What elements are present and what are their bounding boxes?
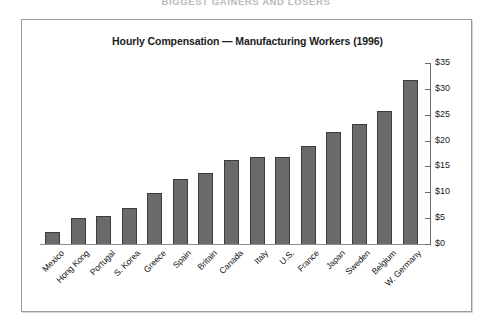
x-axis-tick-label: Canada — [217, 248, 245, 276]
x-axis-tick-label: Britain — [195, 248, 219, 272]
bar-slot — [117, 65, 143, 245]
x-axis-labels: MexicoHong KongPortugalS. KoreaGreeceSpa… — [40, 248, 431, 310]
bar-slot — [40, 65, 66, 245]
bar — [173, 179, 188, 245]
y-axis-tick — [425, 166, 431, 167]
bar — [326, 132, 341, 245]
bar-slot — [193, 65, 219, 245]
y-axis-tick-label: $25 — [435, 109, 450, 119]
y-axis-tick — [425, 192, 431, 193]
bar — [224, 160, 239, 245]
bar-slot — [168, 65, 194, 245]
y-axis-tick — [425, 218, 431, 219]
y-axis-tick-label: $15 — [435, 160, 450, 170]
bar — [377, 111, 392, 245]
bar-slot — [397, 65, 423, 245]
y-axis-tick — [425, 115, 431, 116]
y-axis-tick — [425, 89, 431, 90]
bar — [301, 146, 316, 245]
x-axis-tick-label: France — [296, 248, 322, 274]
bar — [96, 216, 111, 245]
y-axis-tick-label: $35 — [435, 57, 450, 67]
page-header: BIGGEST GAINERS AND LOSERS — [0, 0, 492, 6]
bar — [198, 173, 213, 246]
y-axis-tick-label: $0 — [435, 238, 445, 248]
y-axis-tick-label: $10 — [435, 186, 450, 196]
plot-area — [40, 64, 423, 245]
bar — [352, 124, 367, 245]
y-axis-tick — [425, 244, 431, 245]
chart-title: Hourly Compensation — Manufacturing Work… — [22, 35, 473, 47]
x-axis-tick-label: U.S. — [277, 248, 296, 267]
bar-series — [40, 65, 423, 245]
bar-slot — [142, 65, 168, 245]
x-axis-tick-label: Italy — [252, 248, 270, 266]
x-axis-tick-label: S. Korea — [112, 248, 142, 278]
x-axis-tick-label: Greece — [141, 248, 168, 275]
bar — [250, 157, 265, 245]
bar — [122, 208, 137, 245]
bar-slot — [270, 65, 296, 245]
x-axis-tick-label: Portugal — [88, 248, 117, 277]
bar-slot — [372, 65, 398, 245]
bar-slot — [244, 65, 270, 245]
bar-slot — [66, 65, 92, 245]
y-axis-tick — [425, 63, 431, 64]
bar-slot — [346, 65, 372, 245]
bar — [45, 232, 60, 245]
bar-slot — [295, 65, 321, 245]
x-axis-line — [40, 244, 431, 245]
bar-slot — [219, 65, 245, 245]
bar — [275, 157, 290, 245]
x-axis-tick-label: Japan — [323, 248, 346, 271]
y-axis-tick-label: $30 — [435, 83, 450, 93]
bar — [71, 218, 86, 245]
bar-slot — [321, 65, 347, 245]
chart-frame: Hourly Compensation — Manufacturing Work… — [21, 19, 472, 312]
y-axis-tick-label: $5 — [435, 212, 445, 222]
bar — [403, 80, 418, 245]
bar-slot — [91, 65, 117, 245]
x-axis-tick-label: Sweden — [344, 248, 373, 277]
y-axis-tick — [425, 141, 431, 142]
x-axis-tick-label: Spain — [171, 248, 193, 270]
bar — [147, 193, 162, 245]
y-axis-tick-label: $20 — [435, 135, 450, 145]
